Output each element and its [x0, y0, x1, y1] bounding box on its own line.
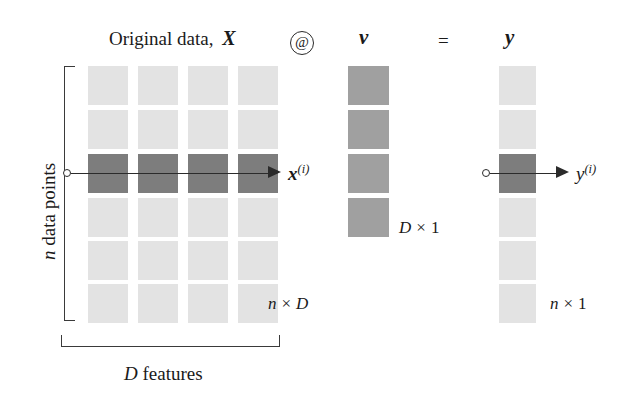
- header-vector-v-symbol: v: [359, 27, 368, 48]
- vector-y-cell: [499, 241, 536, 280]
- vector-y-pointer-dot: [482, 169, 490, 177]
- matrix-cell: [138, 284, 178, 323]
- matrix-row-pointer-dot: [63, 169, 71, 177]
- matrix-cell: [238, 241, 278, 280]
- matrix-row-pointer-line: [71, 173, 268, 174]
- vector-y-pointer-label: y(i): [576, 163, 596, 183]
- matrix-dimension-cols: D: [296, 294, 308, 313]
- vector-v-dimension-times: ×: [411, 218, 431, 237]
- header-vector-y-symbol: y: [505, 27, 514, 48]
- header-original-data: Original data, X: [109, 28, 236, 48]
- vector-v-dimension-cols: 1: [431, 218, 440, 237]
- bottom-axis-label-text: features: [142, 363, 202, 384]
- vector-v-cell: [348, 66, 389, 105]
- vector-y-cell: [499, 110, 536, 149]
- matrix-cell: [88, 66, 128, 105]
- matrix-row-pointer-label: x(i): [288, 163, 309, 183]
- matrix-cell: [138, 241, 178, 280]
- vector-v-dimension-label: D×1: [399, 219, 439, 236]
- left-axis-label-text: data points: [38, 163, 59, 246]
- diagram-canvas: Original data, X @ v = y n data points: [0, 0, 633, 411]
- matrix-cell: [138, 110, 178, 149]
- vector-y-pointer-line: [490, 173, 556, 174]
- left-axis-label-symbol: n: [38, 251, 59, 261]
- matrix-cell: [188, 284, 228, 323]
- operator-equals-symbol: =: [438, 30, 449, 52]
- bottom-axis-label-symbol: D: [124, 363, 138, 384]
- vector-y-cell: [499, 198, 536, 237]
- matrix-cell: [88, 284, 128, 323]
- matrix-row-pointer-label-base: x: [288, 163, 298, 184]
- matrix-cell: [238, 66, 278, 105]
- matrix-cell: [88, 198, 128, 237]
- matrix-cell: [138, 66, 178, 105]
- vector-y-cell: [499, 66, 536, 105]
- vector-y-dimension-rows: n: [550, 294, 559, 313]
- vector-v-cell: [348, 198, 389, 237]
- matrix-cell: [188, 66, 228, 105]
- matrix-cell: [238, 198, 278, 237]
- vector-y-pointer-arrowhead: [556, 166, 569, 178]
- vector-y-cell: [499, 284, 536, 323]
- matrix-row-pointer-arrowhead: [268, 166, 281, 178]
- left-bracket: [64, 66, 75, 321]
- matrix-cell: [188, 198, 228, 237]
- vector-y-dimension-times: ×: [559, 294, 579, 313]
- vector-v-cell: [348, 110, 389, 149]
- operator-matmul-glyph: @: [290, 31, 314, 55]
- matrix-row-pointer-label-sup: (i): [298, 162, 310, 176]
- matrix-cell: [88, 110, 128, 149]
- matrix-cell: [238, 110, 278, 149]
- bottom-bracket: [61, 335, 280, 347]
- matrix-dimension-times: ×: [277, 294, 297, 313]
- header-original-data-symbol: X: [218, 27, 235, 49]
- header-original-data-text: Original data,: [109, 28, 213, 49]
- left-axis-label: n data points: [38, 163, 60, 260]
- operator-matmul-symbol: @: [290, 29, 314, 55]
- vector-v-cell: [348, 154, 389, 193]
- matrix-dimension-rows: n: [268, 294, 277, 313]
- vector-y-pointer-label-sup: (i): [584, 162, 596, 176]
- matrix-dimension-label: n×D: [268, 295, 308, 312]
- matrix-cell: [188, 110, 228, 149]
- vector-y-dimension-label: n×1: [550, 295, 587, 312]
- vector-y-dimension-cols: 1: [578, 294, 587, 313]
- vector-v-dimension-rows: D: [399, 218, 411, 237]
- bottom-axis-label: D features: [124, 364, 203, 383]
- matrix-cell: [138, 198, 178, 237]
- matrix-cell: [88, 241, 128, 280]
- matrix-cell: [188, 241, 228, 280]
